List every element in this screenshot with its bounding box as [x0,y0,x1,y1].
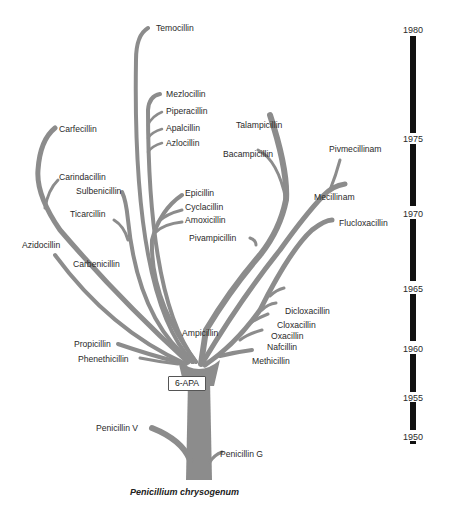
label-carfecillin: Carfecillin [59,124,97,134]
branch-penicillin-v [152,428,190,460]
label-ampicillin: Ampicillin [182,328,218,338]
label-pivampicillin: Pivampicillin [189,233,236,243]
year-1960: 1960 [398,344,428,354]
label-apalcillin: Apalcillin [166,123,200,133]
6-apa-node: 6-APA [168,376,206,391]
timeline-bar [410,36,416,444]
label-ticarcillin: Ticarcillin [70,209,106,219]
label-pivmecillinam: Pivmecillinam [329,144,382,154]
label-penicillin-g: Penicillin G [220,449,263,459]
label-oxacillin: Oxacillin [271,331,303,341]
year-1955: 1955 [398,393,428,403]
label-dicloxacillin: Dicloxacillin [285,306,330,316]
label-temocillin: Temocillin [156,23,194,33]
year-1950: 1950 [398,432,428,442]
root-caption: Penicillium chrysogenum [130,487,239,497]
label-azidocillin: Azidocillin [22,240,60,250]
year-1970: 1970 [398,209,428,219]
label-carindacillin: Carindacillin [59,172,106,182]
label-phenethicillin: Phenethicillin [78,354,129,364]
label-epicillin: Epicillin [185,188,214,198]
branch-carbenicillin [38,128,188,362]
label-cyclacillin: Cyclacillin [185,202,223,212]
year-1975: 1975 [398,134,428,144]
label-nafcillin: Nafcillin [267,342,297,352]
label-azlocillin: Azlocillin [166,138,199,148]
label-mecillinam: Mecillinam [314,192,355,202]
label-bacampicillin: Bacampicillin [223,149,273,159]
label-penicillin-v: Penicillin V [96,423,138,433]
label-carbenicillin: Carbenicillin [73,259,120,269]
label-amoxicillin: Amoxicillin [185,215,226,225]
label-mezlocillin: Mezlocillin [166,89,206,99]
label-methicillin: Methicillin [252,356,290,366]
trunk [186,380,212,480]
label-cloxacillin: Cloxacillin [277,320,316,330]
year-1965: 1965 [398,284,428,294]
label-flucloxacillin: Flucloxacillin [339,218,388,228]
label-talampicillin: Talampicillin [236,120,282,130]
label-sulbenicillin: Sulbenicillin [76,186,121,196]
penicillin-tree-diagram [0,0,449,515]
label-propicillin: Propicillin [74,339,111,349]
label-piperacillin: Piperacillin [166,106,208,116]
year-1980: 1980 [398,25,428,35]
